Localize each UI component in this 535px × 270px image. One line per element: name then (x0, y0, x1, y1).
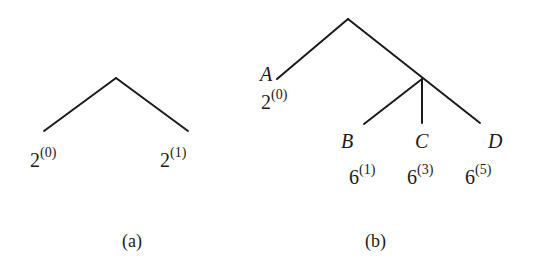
node-C-value: 6(3) (407, 167, 433, 187)
caption-b: (b) (365, 232, 386, 250)
edge-a-left (44, 78, 116, 131)
edge-a-right (116, 78, 188, 131)
tree-edges (0, 0, 535, 270)
edge-b-root-D (348, 19, 480, 123)
node-base: 2 (261, 91, 271, 113)
node-A-name: A (260, 64, 272, 84)
leaf-exp: (0) (40, 145, 56, 160)
leaf-a-0: 2(0) (30, 150, 56, 170)
caption-a: (a) (122, 232, 142, 250)
node-exp: (0) (271, 87, 287, 102)
node-B-value: 6(1) (349, 167, 375, 187)
leaf-base: 2 (30, 149, 40, 171)
edge-b-root-A (277, 19, 348, 79)
edge-b-junction-B (364, 79, 422, 124)
node-A-value: 2(0) (261, 92, 287, 112)
node-base: 6 (349, 166, 359, 188)
leaf-a-1: 2(1) (160, 150, 186, 170)
node-B-name: B (341, 131, 353, 151)
tree-figure: 2(0) 2(1) (a) A 2(0) B C D 6(1) 6(3) 6(5… (0, 0, 535, 270)
leaf-exp: (1) (170, 145, 186, 160)
leaf-base: 2 (160, 149, 170, 171)
node-exp: (5) (475, 162, 491, 177)
node-exp: (3) (417, 162, 433, 177)
node-D-value: 6(5) (465, 167, 491, 187)
node-exp: (1) (359, 162, 375, 177)
node-C-name: C (415, 131, 428, 151)
node-D-name: D (488, 131, 502, 151)
node-base: 6 (407, 166, 417, 188)
node-base: 6 (465, 166, 475, 188)
